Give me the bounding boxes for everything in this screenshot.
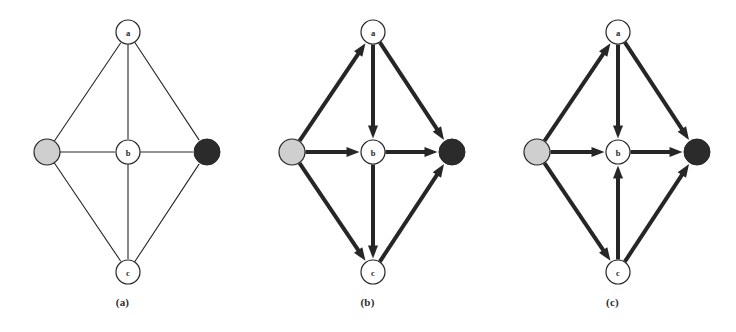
arrowhead-icon (347, 147, 360, 157)
panel-caption-c: (c) (490, 296, 735, 308)
arrowhead-icon (368, 126, 378, 139)
arrowhead-icon (670, 147, 683, 157)
panel-a: abc (a) (0, 0, 245, 332)
graph-diagram-c: abc (490, 0, 735, 300)
arrowhead-icon (592, 147, 605, 157)
graph-edge (625, 170, 685, 261)
panel-caption-b: (b) (245, 296, 490, 308)
graph-edge (625, 42, 685, 133)
graph-edge (55, 163, 121, 261)
graph-diagram-b: abc (245, 0, 490, 300)
graph-node-a[interactable] (361, 20, 385, 44)
graph-node-a[interactable] (606, 20, 630, 44)
graph-node-c[interactable] (361, 260, 385, 284)
graph-node-c[interactable] (116, 260, 140, 284)
graph-edge (545, 163, 607, 255)
figure-root: abc (a) abc (b) abc (c) (0, 0, 736, 332)
graph-edge (380, 170, 440, 261)
arrowhead-icon (425, 147, 438, 157)
panel-caption-a: (a) (0, 296, 245, 308)
arrowhead-icon (368, 246, 378, 259)
graph-node-b[interactable] (606, 140, 630, 164)
arrowhead-icon (613, 166, 623, 179)
graph-node-a[interactable] (116, 20, 140, 44)
graph-edge (300, 163, 362, 255)
graph-node-sink[interactable] (684, 139, 710, 165)
graph-node-c[interactable] (606, 260, 630, 284)
graph-node-source[interactable] (524, 139, 550, 165)
graph-node-sink[interactable] (439, 139, 465, 165)
graph-node-sink[interactable] (194, 139, 220, 165)
graph-node-b[interactable] (116, 140, 140, 164)
panel-b: abc (b) (245, 0, 490, 332)
graph-edge (55, 43, 121, 141)
graph-edge (545, 49, 607, 141)
panel-c: abc (c) (490, 0, 735, 332)
graph-diagram-a: abc (0, 0, 245, 300)
graph-edge (135, 42, 199, 139)
graph-edge (380, 42, 440, 133)
graph-node-source[interactable] (279, 139, 305, 165)
graph-edge (135, 164, 199, 261)
graph-node-b[interactable] (361, 140, 385, 164)
arrowhead-icon (613, 126, 623, 139)
graph-edge (300, 49, 362, 141)
graph-node-source[interactable] (34, 139, 60, 165)
